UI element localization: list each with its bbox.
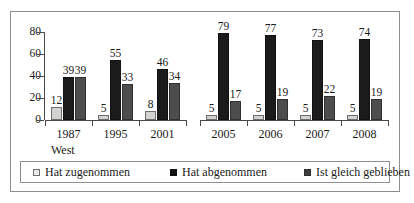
x-axis-tick-mark <box>186 120 187 126</box>
bar <box>98 115 109 121</box>
x-axis-tick-mark <box>294 120 295 126</box>
bar-value-label: 19 <box>366 87 387 99</box>
legend-item-hat-abgenommen[interactable]: Hat abgenommen <box>170 166 267 178</box>
x-axis-tick-label: 2005 <box>200 128 247 140</box>
bar <box>230 101 241 120</box>
bar <box>75 77 86 120</box>
legend-label: Ist gleich geblieben <box>316 166 410 178</box>
bar-group: 57419 <box>341 12 388 120</box>
bar <box>63 77 74 120</box>
legend-swatch-gray-icon <box>304 169 311 176</box>
x-axis-tick-label: 2007 <box>294 128 341 140</box>
bar-value-label: 77 <box>260 23 281 35</box>
bar <box>371 99 382 120</box>
bar <box>359 39 370 120</box>
x-axis-segment <box>45 120 186 121</box>
bar-value-label: 74 <box>354 27 375 39</box>
bar-value-label: 22 <box>319 84 340 96</box>
y-axis-tick-mark <box>37 120 44 121</box>
bar-group: 123939 <box>45 12 92 120</box>
y-axis-tick-mark <box>37 76 44 77</box>
bar-value-label: 17 <box>225 89 246 101</box>
bar <box>145 111 156 120</box>
plot-area: 806040200 123939555338463457917577195732… <box>11 12 401 152</box>
x-axis-tick-label: 1995 <box>92 128 139 140</box>
bar <box>206 115 217 121</box>
bar-group: 55533 <box>92 12 139 120</box>
bar <box>218 33 229 120</box>
legend-item-hat-zugenommen[interactable]: Hat zugenommen <box>33 166 130 178</box>
x-axis-tick-label: 2006 <box>247 128 294 140</box>
legend-label: Hat abgenommen <box>182 166 267 178</box>
legend-item-ist-gleich-geblieben[interactable]: Ist gleich geblieben <box>304 166 410 178</box>
legend-swatch-black-icon <box>170 169 177 176</box>
y-axis-tick-mark <box>37 32 44 33</box>
region-label: West <box>51 144 75 156</box>
bar-value-label: 55 <box>105 48 126 60</box>
x-axis-tick-mark <box>200 120 201 126</box>
x-axis-tick-mark <box>92 120 93 126</box>
bar-value-label: 73 <box>307 28 328 40</box>
bar <box>312 40 323 120</box>
bar <box>51 107 62 120</box>
bar <box>122 84 133 120</box>
bar-value-label: 79 <box>213 21 234 33</box>
bar <box>324 96 335 120</box>
x-axis-tick-label: 2001 <box>139 128 186 140</box>
bar <box>169 83 180 120</box>
y-axis-tick-mark <box>37 98 44 99</box>
y-axis-tick-labels: 806040200 <box>15 12 41 152</box>
bar-value-label: 33 <box>117 72 138 84</box>
x-axis-tick-mark <box>45 120 46 126</box>
bar-value-label: 19 <box>272 87 293 99</box>
x-axis-tick-mark <box>247 120 248 126</box>
chart-legend: Hat zugenommen Hat abgenommen Ist gleich… <box>20 161 390 183</box>
bar <box>277 99 288 120</box>
x-axis-tick-mark <box>139 120 140 126</box>
bar-group: 57322 <box>294 12 341 120</box>
bar-value-label: 34 <box>164 71 185 83</box>
bar <box>347 115 358 121</box>
bar <box>253 115 264 121</box>
bar-group: 84634 <box>139 12 186 120</box>
bar-group: 57917 <box>200 12 247 120</box>
bar <box>300 115 311 121</box>
legend-label: Hat zugenommen <box>45 166 130 178</box>
bar <box>265 35 276 120</box>
x-axis-tick-mark <box>341 120 342 126</box>
bar-group: 57719 <box>247 12 294 120</box>
y-axis-tick-mark <box>37 54 44 55</box>
bar-value-label: 39 <box>70 65 91 77</box>
bar <box>110 60 121 121</box>
x-axis-tick-label: 2008 <box>341 128 388 140</box>
chart-frame: 806040200 123939555338463457917577195732… <box>10 11 400 192</box>
bar-value-label: 46 <box>152 57 173 69</box>
x-axis-tick-label: 1987 <box>45 128 92 140</box>
legend-swatch-light-icon <box>33 169 40 176</box>
x-axis-tick-mark <box>388 120 389 126</box>
